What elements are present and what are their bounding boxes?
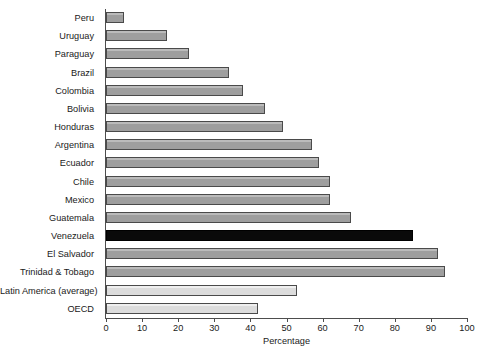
bar-row — [106, 118, 467, 136]
bar — [106, 266, 445, 277]
tick-mark — [178, 318, 179, 322]
tick-mark — [467, 318, 468, 322]
category-label: Brazil — [0, 64, 100, 82]
bar-row — [106, 173, 467, 191]
bar — [106, 285, 297, 296]
bar-row — [106, 263, 467, 281]
tick-label: 20 — [173, 323, 183, 333]
category-label: Ecuador — [0, 154, 100, 172]
bar-row — [106, 27, 467, 45]
tick-label: 60 — [317, 323, 327, 333]
bar-row — [106, 300, 467, 318]
bar — [106, 67, 229, 78]
bar — [106, 157, 319, 168]
bar — [106, 30, 167, 41]
tick-label: 70 — [354, 323, 364, 333]
tick-mark — [250, 318, 251, 322]
bar-row — [106, 245, 467, 263]
tick-label: 50 — [281, 323, 291, 333]
tick-mark — [359, 318, 360, 322]
bar — [106, 303, 258, 314]
tick-label: 30 — [209, 323, 219, 333]
category-label: Guatemala — [0, 209, 100, 227]
bar-row — [106, 282, 467, 300]
bar-row — [106, 45, 467, 63]
category-label: Colombia — [0, 82, 100, 100]
bar-row — [106, 136, 467, 154]
bar-row — [106, 100, 467, 118]
tick-mark — [106, 318, 107, 322]
category-label: Paraguay — [0, 45, 100, 63]
category-label: Latin America (average) — [0, 282, 100, 300]
category-label: Uruguay — [0, 27, 100, 45]
category-label: Argentina — [0, 136, 100, 154]
bar-row — [106, 64, 467, 82]
category-label: Mexico — [0, 191, 100, 209]
bar — [106, 194, 330, 205]
bar — [106, 103, 265, 114]
category-label: Trinidad & Tobago — [0, 263, 100, 281]
category-label: Chile — [0, 173, 100, 191]
tick-mark — [431, 318, 432, 322]
category-label: El Salvador — [0, 245, 100, 263]
bar-row — [106, 154, 467, 172]
x-axis-title: Percentage — [106, 336, 467, 346]
tick-mark — [287, 318, 288, 322]
bar — [106, 85, 243, 96]
plot-area: PeruUruguayParaguayBrazilColombiaBolivia… — [0, 0, 487, 357]
category-label: Peru — [0, 9, 100, 27]
bar — [106, 121, 283, 132]
category-label: Honduras — [0, 118, 100, 136]
bar — [106, 139, 312, 150]
category-label: Bolivia — [0, 100, 100, 118]
bar-row — [106, 209, 467, 227]
bar — [106, 248, 438, 259]
tick-label: 100 — [459, 323, 474, 333]
bar — [106, 176, 330, 187]
bar — [106, 230, 413, 241]
category-axis-labels: PeruUruguayParaguayBrazilColombiaBolivia… — [0, 9, 100, 318]
bar — [106, 12, 124, 23]
x-axis-ticks: 0102030405060708090100 — [106, 318, 467, 338]
bar-series — [106, 9, 467, 318]
tick-mark — [323, 318, 324, 322]
bar-row — [106, 9, 467, 27]
category-label: Venezuela — [0, 227, 100, 245]
category-label: OECD — [0, 300, 100, 318]
tick-label: 40 — [245, 323, 255, 333]
bar-row — [106, 191, 467, 209]
bar — [106, 48, 189, 59]
tick-label: 0 — [103, 323, 108, 333]
tick-mark — [142, 318, 143, 322]
bar-row — [106, 227, 467, 245]
bar — [106, 212, 351, 223]
tick-label: 80 — [390, 323, 400, 333]
bar-row — [106, 82, 467, 100]
tick-mark — [395, 318, 396, 322]
bar-chart: PeruUruguayParaguayBrazilColombiaBolivia… — [0, 0, 487, 357]
tick-label: 10 — [137, 323, 147, 333]
tick-mark — [214, 318, 215, 322]
tick-label: 90 — [426, 323, 436, 333]
